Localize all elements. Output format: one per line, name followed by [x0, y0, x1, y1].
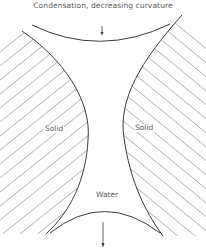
diagram-canvas	[0, 0, 206, 248]
right-solid-hatching	[110, 2, 206, 245]
left-solid-label: Solid	[44, 125, 64, 133]
bottom-meniscus	[50, 212, 160, 234]
capillary-condensation-diagram: Condensation, decreasing curvature Solid…	[0, 0, 206, 248]
right-solid-label: Solid	[134, 124, 154, 132]
diagram-title: Condensation, decreasing curvature	[0, 2, 206, 10]
bottom-down-arrow	[102, 222, 105, 248]
water-label: Water	[96, 191, 118, 199]
top-down-arrow	[101, 26, 104, 36]
